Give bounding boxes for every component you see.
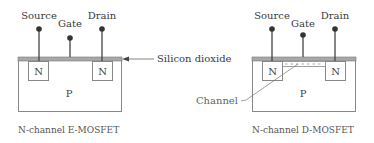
drain-label: Drain [88, 10, 117, 21]
oxide-layer [252, 57, 356, 61]
arrow-icon [122, 57, 129, 62]
drain-terminal-icon [332, 26, 338, 32]
n-label-left: N [268, 66, 277, 77]
mosfet-diagram: N N P Source Gate Drain N-channel E-MOSF… [0, 0, 374, 143]
n-label-right: N [331, 66, 340, 77]
source-label: Source [21, 10, 57, 21]
n-label-right: N [98, 66, 107, 77]
gate-terminal-icon [67, 35, 73, 41]
caption-d-mosfet: N-channel D-MOSFET [252, 125, 354, 135]
d-mosfet: N N P Source Gate Drain Channel N-channe… [196, 10, 356, 135]
source-terminal-icon [36, 26, 42, 32]
channel-label: Channel [196, 95, 238, 106]
oxide-layer [18, 57, 122, 61]
source-terminal-icon [269, 26, 275, 32]
gate-label: Gate [58, 18, 82, 29]
gate-terminal-icon [300, 32, 306, 38]
p-label: P [66, 88, 73, 99]
e-mosfet: N N P Source Gate Drain N-channel E-MOSF… [18, 10, 122, 135]
n-label-left: N [34, 66, 43, 77]
source-label: Source [254, 10, 290, 21]
oxide-label: Silicon dioxide [157, 53, 232, 64]
gate-label: Gate [291, 18, 315, 29]
drain-label: Drain [321, 10, 350, 21]
caption-e-mosfet: N-channel E-MOSFET [18, 125, 119, 135]
drain-terminal-icon [99, 26, 105, 32]
oxide-callout: Silicon dioxide [122, 53, 232, 64]
p-label: P [300, 88, 307, 99]
